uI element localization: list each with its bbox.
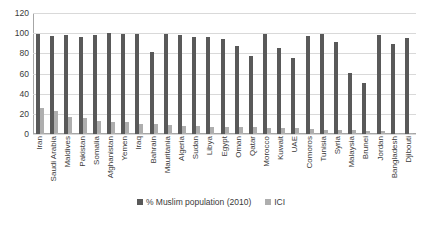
x-axis-tick-label: Bangladesh bbox=[391, 136, 399, 178]
legend-swatch-icon bbox=[265, 199, 271, 205]
bar-group bbox=[147, 13, 161, 134]
bar-group bbox=[345, 13, 359, 134]
bar-group bbox=[359, 13, 373, 134]
bar bbox=[178, 35, 182, 134]
bar bbox=[196, 126, 200, 134]
bar-group bbox=[260, 13, 274, 134]
x-axis-tick-label: Somalia bbox=[93, 136, 101, 165]
bar bbox=[125, 122, 129, 134]
bar bbox=[83, 118, 87, 134]
x-axis-labels: IranSaudi ArabiaMaldivesPakistanSomaliaA… bbox=[33, 135, 416, 193]
y-axis-tick-label: 120 bbox=[15, 9, 29, 18]
bar bbox=[263, 34, 267, 134]
legend-swatch-icon bbox=[137, 199, 143, 205]
x-axis-label-cell: Comoros bbox=[303, 135, 317, 193]
x-axis-tick-label: Sudan bbox=[192, 136, 200, 159]
legend-item[interactable]: % Muslim population (2010) bbox=[137, 198, 251, 207]
bar bbox=[405, 38, 409, 134]
bar bbox=[249, 56, 253, 134]
bar-series-container bbox=[33, 13, 416, 134]
bar-group bbox=[47, 13, 61, 134]
bar-group bbox=[374, 13, 388, 134]
x-axis-tick-label: Iraq bbox=[135, 136, 143, 150]
bar bbox=[68, 117, 72, 134]
x-axis-tick-label: Maldives bbox=[64, 136, 72, 168]
bar-group bbox=[274, 13, 288, 134]
x-axis-tick-label: Morocco bbox=[263, 136, 271, 167]
x-axis-tick-label: UAE bbox=[291, 136, 299, 152]
x-axis-tick-label: Afghanistan bbox=[107, 136, 115, 178]
x-axis-tick-label: Egypt bbox=[221, 136, 229, 156]
bar-group bbox=[246, 13, 260, 134]
x-axis-label-cell: Iraq bbox=[132, 135, 146, 193]
bar bbox=[182, 126, 186, 134]
bar bbox=[150, 52, 154, 134]
x-axis-label-cell: Syria bbox=[331, 135, 345, 193]
x-axis-label-cell: Somalia bbox=[90, 135, 104, 193]
x-axis-tick-label: Malaysia bbox=[348, 136, 356, 168]
x-axis-tick-label: Pakistan bbox=[79, 136, 87, 167]
bar bbox=[253, 127, 257, 134]
y-axis-tick-label: 80 bbox=[20, 49, 29, 58]
x-axis-label-cell: Brunei bbox=[359, 135, 373, 193]
x-axis-tick-label: Tunisia bbox=[320, 136, 328, 162]
bar bbox=[267, 128, 271, 134]
bar bbox=[235, 46, 239, 134]
bar bbox=[192, 37, 196, 134]
bar bbox=[221, 39, 225, 134]
bar bbox=[107, 33, 111, 134]
legend-item[interactable]: ICI bbox=[265, 198, 285, 207]
x-axis-label-cell: Qatar bbox=[246, 135, 260, 193]
bar-group bbox=[388, 13, 402, 134]
bar-group bbox=[161, 13, 175, 134]
bar-group bbox=[402, 13, 416, 134]
bar-group bbox=[76, 13, 90, 134]
bar-group bbox=[232, 13, 246, 134]
x-axis-tick-label: Yemen bbox=[121, 136, 129, 161]
bar bbox=[306, 36, 310, 134]
bar bbox=[395, 133, 399, 134]
x-axis-label-cell: Pakistan bbox=[76, 135, 90, 193]
bar-group bbox=[90, 13, 104, 134]
x-axis-tick-label: Jordan bbox=[377, 136, 385, 160]
bar bbox=[239, 127, 243, 134]
bar-group bbox=[317, 13, 331, 134]
bar-group bbox=[132, 13, 146, 134]
x-axis-tick-label: Syria bbox=[334, 136, 342, 154]
bar-group bbox=[104, 13, 118, 134]
x-axis-label-cell: Bahrain bbox=[147, 135, 161, 193]
bar-group bbox=[288, 13, 302, 134]
bar bbox=[381, 131, 385, 134]
bar bbox=[310, 129, 314, 134]
bar-group bbox=[217, 13, 231, 134]
legend-label: ICI bbox=[274, 198, 285, 207]
bar bbox=[277, 48, 281, 135]
x-axis-tick-label: Iran bbox=[36, 136, 44, 150]
x-axis-tick-label: Kuwait bbox=[277, 136, 285, 160]
bar bbox=[111, 122, 115, 135]
bar-group bbox=[33, 13, 47, 134]
bar bbox=[295, 128, 299, 134]
x-axis-label-cell: Tunisia bbox=[317, 135, 331, 193]
bar bbox=[352, 130, 356, 134]
bar bbox=[154, 124, 158, 134]
bar bbox=[206, 37, 210, 134]
x-axis-tick-label: Mauritania bbox=[164, 136, 172, 173]
bar-group bbox=[175, 13, 189, 134]
x-axis-label-cell: Oman bbox=[232, 135, 246, 193]
bar bbox=[377, 35, 381, 134]
x-axis-label-cell: Libya bbox=[203, 135, 217, 193]
x-axis-label-cell: Jordan bbox=[374, 135, 388, 193]
x-axis-tick-label: Bahrain bbox=[150, 136, 158, 164]
bar bbox=[225, 127, 229, 134]
bar-chart: 020406080100120 IranSaudi ArabiaMaldives… bbox=[0, 0, 422, 226]
x-axis-label-cell: Yemen bbox=[118, 135, 132, 193]
x-axis-label-cell: Algeria bbox=[175, 135, 189, 193]
y-axis-tick-label: 20 bbox=[20, 110, 29, 119]
x-axis-label-cell: Djibouti bbox=[402, 135, 416, 193]
x-axis-label-cell: Mauritania bbox=[161, 135, 175, 193]
bar bbox=[409, 133, 413, 134]
bar bbox=[121, 34, 125, 134]
bar-group bbox=[203, 13, 217, 134]
bar bbox=[97, 121, 101, 134]
